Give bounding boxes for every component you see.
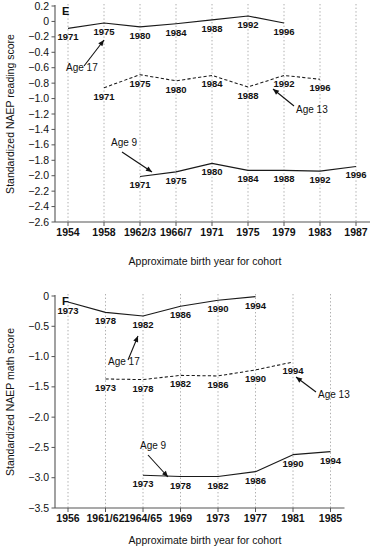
x-tick-label: 1962/3: [124, 226, 156, 238]
point-year-label: 1971: [57, 31, 79, 42]
point-year-label: 1990: [245, 373, 266, 384]
math-score-chart: 0−0.5−1.0−1.5−2.0−2.5−3.0−3.519561961/62…: [0, 272, 371, 547]
y-tick-label: 0: [43, 290, 49, 302]
y-tick-label: −3.0: [28, 471, 49, 483]
point-year-label: 1980: [165, 84, 186, 95]
point-year-label: 1978: [170, 480, 191, 491]
y-tick-label: −2.6: [28, 216, 49, 228]
series-annotation-label: Age 9: [111, 137, 138, 148]
y-tick-label: −0.6: [28, 61, 49, 73]
y-tick-label: −1.5: [28, 380, 49, 392]
y-tick-label: −1.0: [28, 92, 49, 104]
x-tick-label: 1975: [236, 226, 260, 238]
y-tick-label: −0.4: [28, 46, 49, 58]
point-year-label: 1986: [170, 309, 191, 320]
point-year-label: 1971: [93, 91, 115, 102]
point-year-label: 1978: [132, 383, 153, 394]
x-tick-label: 1971: [200, 226, 224, 238]
series-annotation-label: Age 17: [66, 62, 98, 73]
x-tick-label: 1958: [92, 226, 116, 238]
y-axis-title: Standardized NAEP math score: [4, 328, 16, 476]
y-tick-label: −1.0: [28, 350, 49, 362]
x-tick-label: 1964/65: [124, 512, 162, 524]
series-annotation-label: Age 13: [318, 389, 350, 400]
point-year-label: 1982: [132, 319, 153, 330]
x-tick-label: 1954: [56, 226, 80, 238]
y-tick-label: −2.4: [28, 200, 49, 212]
point-year-label: 1984: [201, 78, 223, 89]
x-tick-label: 1973: [206, 512, 230, 524]
x-tick-label: 1956: [56, 512, 80, 524]
x-tick-label: 1969: [169, 512, 193, 524]
point-year-label: 1994: [245, 300, 267, 311]
point-year-label: 1973: [132, 478, 153, 489]
x-tick-label: 1961/62: [87, 512, 125, 524]
point-year-label: 1986: [207, 379, 228, 390]
point-year-label: 1984: [237, 173, 259, 184]
point-year-label: 1980: [129, 30, 150, 41]
x-tick-label: 1981: [281, 512, 305, 524]
point-year-label: 1982: [170, 378, 191, 389]
y-tick-label: −0.8: [28, 77, 49, 89]
y-tick-label: 0.2: [34, 0, 49, 12]
x-tick-label: 1985: [319, 512, 343, 524]
y-tick-label: −2.5: [28, 441, 49, 453]
point-year-label: 1982: [207, 480, 228, 491]
point-year-label: 1988: [237, 90, 258, 101]
x-tick-label: 1983: [308, 226, 332, 238]
point-year-label: 1992: [237, 19, 258, 30]
point-year-label: 1986: [245, 475, 266, 486]
point-year-label: 1978: [95, 315, 116, 326]
point-year-label: 1988: [273, 173, 294, 184]
point-year-label: 1975: [129, 78, 151, 89]
series-annotation-label: Age 17: [108, 356, 140, 367]
point-year-label: 1973: [95, 382, 116, 393]
y-tick-label: −2.2: [28, 185, 49, 197]
x-tick-label: 1977: [244, 512, 268, 524]
point-year-label: 1992: [309, 174, 330, 185]
point-year-label: 1988: [201, 23, 222, 34]
y-tick-label: −0.2: [28, 30, 49, 42]
y-tick-label: −1.6: [28, 138, 49, 150]
point-year-label: 1975: [165, 175, 187, 186]
x-axis-title: Approximate birth year for cohort: [129, 255, 282, 267]
x-tick-label: 1966/7: [160, 226, 192, 238]
point-year-label: 1996: [345, 169, 366, 180]
point-year-label: 1996: [273, 26, 294, 37]
series-annotation-label: Age 13: [296, 104, 328, 115]
y-tick-label: 0: [43, 15, 49, 27]
annotation-arrowhead: [146, 167, 152, 172]
point-year-label: 1980: [201, 166, 222, 177]
y-tick-label: −1.2: [28, 108, 49, 120]
point-year-label: 1992: [273, 78, 294, 89]
x-tick-label: 1987: [344, 226, 368, 238]
point-year-label: 1984: [165, 27, 187, 38]
panel-letter: E: [62, 5, 69, 17]
y-tick-label: −1.8: [28, 154, 49, 166]
panel-letter: F: [62, 295, 69, 307]
point-year-label: 1994: [320, 455, 342, 466]
point-year-label: 1975: [93, 26, 115, 37]
point-year-label: 1994: [282, 365, 304, 376]
x-axis-title: Approximate birth year for cohort: [129, 534, 282, 546]
chart-panel-E: 0.20−0.2−0.4−0.6−0.8−1.0−1.2−1.4−1.6−1.8…: [0, 0, 371, 275]
y-axis-title: Standardized NAEP reading score: [4, 34, 16, 194]
point-year-label: 1996: [309, 82, 330, 93]
y-tick-label: −0.5: [28, 320, 49, 332]
x-tick-label: 1979: [272, 226, 296, 238]
y-tick-label: −1.4: [28, 123, 49, 135]
chart-panel-F: 0−0.5−1.0−1.5−2.0−2.5−3.0−3.519561961/62…: [0, 272, 371, 547]
annotation-arrowhead: [98, 40, 104, 46]
reading-score-chart: 0.20−0.2−0.4−0.6−0.8−1.0−1.2−1.4−1.6−1.8…: [0, 0, 371, 275]
point-year-label: 1990: [207, 303, 228, 314]
y-tick-label: −2.0: [28, 169, 49, 181]
y-tick-label: −2.0: [28, 411, 49, 423]
point-year-label: 1971: [129, 179, 151, 190]
point-year-label: 1990: [282, 458, 303, 469]
y-tick-label: −3.5: [28, 502, 49, 514]
annotation-arrowhead: [296, 377, 302, 383]
series-annotation-label: Age 9: [140, 440, 167, 451]
